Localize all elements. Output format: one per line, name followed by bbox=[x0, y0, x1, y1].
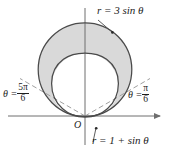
label-theta-5pi-over-6: θ =5π6 bbox=[3, 83, 29, 103]
label-theta-pi-over-6: θ =π6 bbox=[128, 84, 149, 104]
theta-left-fraction: 5π6 bbox=[17, 83, 29, 103]
polar-plot-svg bbox=[0, 0, 173, 153]
theta-right-denominator: 6 bbox=[142, 95, 149, 105]
leader-dot-circle bbox=[111, 31, 114, 34]
theta-left-denominator: 6 bbox=[17, 94, 29, 104]
label-circle-equation: r = 3 sin θ bbox=[97, 5, 143, 16]
label-cardioid-equation: r = 1 + sin θ bbox=[92, 135, 149, 146]
theta-right-prefix: θ = bbox=[128, 89, 142, 100]
polar-curves-figure: r = 3 sin θ r = 1 + sin θ θ =5π6 θ =π6 O bbox=[0, 0, 173, 153]
theta-left-prefix: θ = bbox=[3, 88, 17, 99]
leader-dot-cardioid bbox=[95, 127, 98, 130]
label-origin: O bbox=[74, 120, 81, 130]
theta-right-fraction: π6 bbox=[142, 84, 149, 104]
